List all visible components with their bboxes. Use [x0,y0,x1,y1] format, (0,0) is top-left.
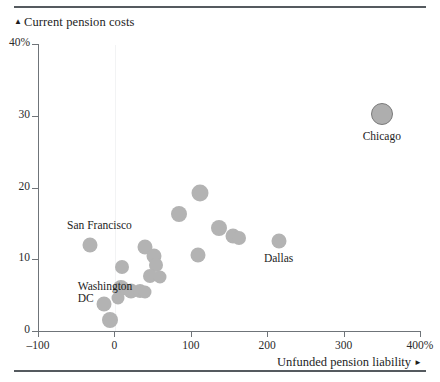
data-point-dallas[interactable] [271,233,286,248]
point-label-washington: Washington DC [78,280,133,306]
x-axis-tick-label: –100 [27,339,50,351]
data-point-chicago[interactable] [371,103,393,125]
point-label-san-francisco: San Francisco [67,219,132,232]
top-divider-rule [14,6,426,8]
x-axis-tick-label: 100 [182,339,199,351]
plot-area: San FranciscoWashington DCDallasChicago [38,44,420,331]
x-axis-tick [191,331,192,337]
y-axis-tick-label: 20 [0,180,30,192]
x-axis-tick-label: 400% [407,339,434,351]
y-axis-tick-label: 0 [0,323,30,335]
bottom-divider-rule [14,370,426,372]
right-triangle-icon: ► [414,358,422,367]
data-point[interactable] [154,271,167,284]
x-axis-tick-label: 0 [112,339,118,351]
x-axis-title-text: Unfunded pension liability [277,355,411,369]
data-point[interactable] [102,312,118,328]
x-axis-tick [114,331,115,337]
data-point-san-francisco[interactable] [82,237,97,252]
x-axis-tick [267,331,268,337]
data-point[interactable] [115,260,129,274]
point-label-chicago: Chicago [363,130,401,143]
x-axis-title: Unfunded pension liability► [277,355,422,370]
y-axis-tick-label: 10 [0,251,30,263]
x-axis-line [38,331,420,332]
point-label-dallas: Dallas [264,252,293,265]
x-axis-tick-label: 300 [335,339,352,351]
data-point[interactable] [232,231,246,245]
up-triangle-icon: ▲ [14,17,22,26]
x-axis-tick [344,331,345,337]
x-axis-tick [420,331,421,337]
y-axis-tick-label: 40% [0,36,30,48]
chart-title: ▲Current pension costs [14,15,134,30]
chart-figure: ▲Current pension costs 010203040% –10001… [0,0,440,382]
y-axis-tick-label: 30 [0,108,30,120]
chart-title-text: Current pension costs [24,15,134,29]
data-point[interactable] [138,285,151,298]
x-axis-tick-label: 200 [259,339,276,351]
data-point[interactable] [191,247,206,262]
data-point[interactable] [171,206,187,222]
x-axis-tick [38,331,39,337]
data-point[interactable] [191,184,208,201]
